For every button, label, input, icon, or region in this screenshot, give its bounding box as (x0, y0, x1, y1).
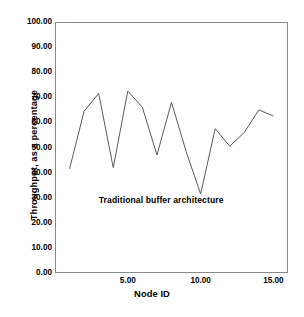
y-tick-label: 60.00 (14, 118, 52, 126)
series-line-traditional-buffer-architecture (55, 22, 288, 273)
x-tick-label: 15.00 (248, 276, 298, 286)
y-tick-label: 30.00 (14, 194, 52, 202)
x-axis-tick-labels: 5.0010.0015.00 (0, 276, 304, 290)
y-tick-label: 10.00 (14, 244, 52, 252)
y-tick-label: 90.00 (14, 43, 52, 51)
y-tick-label: 40.00 (14, 169, 52, 177)
y-axis-tick-labels: 0.0010.0020.0030.0040.0050.0060.0070.008… (14, 0, 52, 317)
x-axis-title: Node ID (0, 289, 304, 299)
y-tick-label: 50.00 (14, 144, 52, 152)
y-tick-label: 100.00 (14, 18, 52, 26)
y-tick-label: 80.00 (14, 68, 52, 76)
x-tick-label: 5.00 (103, 276, 153, 286)
x-tick-label: 10.00 (176, 276, 226, 286)
series-annotation-label: Traditional buffer architecture (99, 195, 224, 205)
plot-area: Traditional buffer architecture (55, 22, 288, 273)
y-tick-label: 70.00 (14, 93, 52, 101)
y-tick-label: 20.00 (14, 219, 52, 227)
chart-figure: Throughput, as a percentage 0.0010.0020.… (0, 0, 304, 317)
